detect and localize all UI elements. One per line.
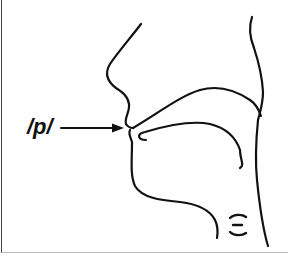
tongue [139, 123, 242, 168]
arrow-head-icon [112, 124, 124, 133]
lower-lip-chin [129, 130, 217, 238]
phoneme-label: /p/ [27, 114, 53, 140]
glottis-symbol-icon [230, 215, 246, 235]
upper-lip [126, 124, 133, 128]
face-profile-nose [107, 24, 141, 124]
pharynx-wall [250, 17, 268, 246]
